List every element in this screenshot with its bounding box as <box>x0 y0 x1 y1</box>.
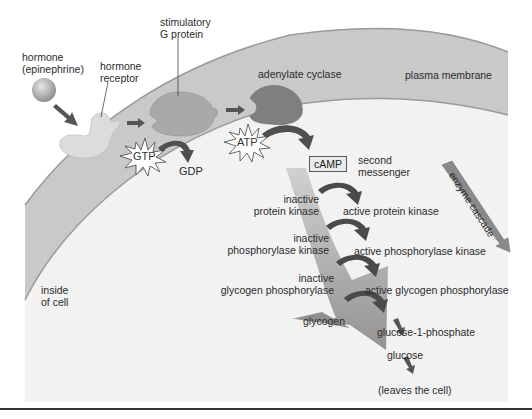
camp-box: cAMP <box>309 156 347 172</box>
glucose-label: glucose <box>387 349 423 361</box>
plasma-membrane-label: plasma membrane <box>405 69 492 81</box>
gtp-label: GTP <box>133 150 156 162</box>
receptor-label-line1: hormone <box>100 60 141 72</box>
step3-inactive-line1: inactive <box>221 272 334 284</box>
g-protein-label: stimulatory G protein <box>160 16 211 40</box>
inactive-glycogen-phosphorylase-label: inactive glycogen phosphorylase <box>221 272 334 296</box>
arrow-icon <box>53 104 78 126</box>
glycogen-label: glycogen <box>303 315 345 327</box>
adenylate-cyclase-label: adenylate cyclase <box>258 68 341 80</box>
second-messenger-line2: messenger <box>358 166 410 178</box>
active-phosphorylase-kinase-label: active phosphorylase kinase <box>354 245 486 257</box>
hormone-label: hormone (epinephrine) <box>22 51 84 75</box>
inside-cell-line2: of cell <box>41 296 68 308</box>
step1-inactive-line2: protein kinase <box>254 205 319 217</box>
step3-inactive-line2: glycogen phosphorylase <box>221 284 334 296</box>
leaves-cell-label: (leaves the cell) <box>378 384 452 396</box>
active-protein-kinase-label: active protein kinase <box>343 205 439 217</box>
g-protein-label-line1: stimulatory <box>160 16 211 28</box>
g-protein-label-line2: G protein <box>160 28 211 40</box>
inside-cell-line1: inside <box>41 284 68 296</box>
receptor-label-line2: receptor <box>100 72 141 84</box>
step2-inactive-line1: inactive <box>227 232 329 244</box>
inactive-protein-kinase-label: inactive protein kinase <box>254 193 319 217</box>
gdp-label: GDP <box>179 165 203 177</box>
step2-inactive-line2: phosphorylase kinase <box>227 244 329 256</box>
hormone-receptor-label: hormone receptor <box>100 60 141 84</box>
step1-inactive-line1: inactive <box>254 193 319 205</box>
hormone-label-line1: hormone <box>22 51 84 63</box>
hormone-label-line2: (epinephrine) <box>22 63 84 75</box>
second-messenger-line1: second <box>358 154 410 166</box>
second-messenger-label: second messenger <box>358 154 410 178</box>
inactive-phosphorylase-kinase-label: inactive phosphorylase kinase <box>227 232 329 256</box>
atp-label: ATP <box>237 136 258 148</box>
active-glycogen-phosphorylase-label: active glycogen phosphorylase <box>365 284 509 296</box>
glucose-1-phosphate-label: glucose-1-phosphate <box>377 326 475 338</box>
hormone-molecule-icon <box>32 78 56 102</box>
inside-of-cell-label: inside of cell <box>41 284 68 308</box>
